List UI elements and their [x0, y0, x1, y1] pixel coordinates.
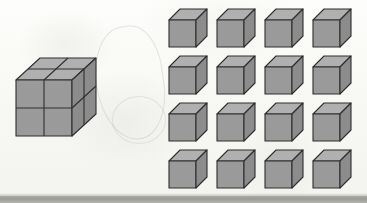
unit-cube-front-face: [313, 161, 340, 188]
unit-cube-svg: [168, 8, 208, 48]
unit-cube-front-face: [313, 114, 340, 141]
unit-cube-front-face: [265, 67, 292, 94]
unit-cube: [216, 8, 256, 52]
unit-cube-front-face: [313, 67, 340, 94]
page-bottom-band: [0, 196, 367, 203]
unit-cube-front-face: [217, 67, 244, 94]
unit-cube-svg: [264, 149, 304, 189]
figure-canvas: [0, 0, 367, 203]
unit-cube-svg: [264, 102, 304, 142]
unit-cube-front-face: [265, 114, 292, 141]
unit-cube: [312, 8, 352, 52]
unit-cube-front-face: [169, 20, 196, 47]
unit-cube-svg: [216, 149, 256, 189]
unit-cube: [168, 149, 208, 193]
unit-cube: [168, 8, 208, 52]
unit-cube: [312, 102, 352, 146]
unit-cube: [216, 55, 256, 99]
unit-cube-front-face: [169, 161, 196, 188]
unit-cube-front-face: [217, 114, 244, 141]
pencil-smudge-mark-secondary: [112, 96, 166, 144]
composite-cube-svg: [14, 52, 98, 138]
unit-cube-front-face: [265, 161, 292, 188]
unit-cube: [216, 102, 256, 146]
pencil-smudge-mark: [88, 22, 171, 144]
unit-cube: [264, 8, 304, 52]
unit-cube-front-face: [217, 20, 244, 47]
unit-cube-svg: [168, 102, 208, 142]
unit-cube: [168, 55, 208, 99]
unit-cube: [312, 55, 352, 99]
unit-cube-svg: [216, 55, 256, 95]
unit-cube-front-face: [169, 114, 196, 141]
unit-cube-front-face: [169, 67, 196, 94]
unit-cube: [216, 149, 256, 193]
unit-cube-svg: [216, 102, 256, 142]
unit-cube: [168, 102, 208, 146]
composite-cube-front-face: [16, 80, 72, 136]
unit-cube-svg: [264, 55, 304, 95]
unit-cube-svg: [168, 149, 208, 189]
unit-cube: [264, 102, 304, 146]
composite-cube: [14, 52, 98, 142]
unit-cube-front-face: [313, 20, 340, 47]
unit-cube-grid: [168, 8, 358, 194]
unit-cube-svg: [312, 8, 352, 48]
unit-cube-front-face: [265, 20, 292, 47]
unit-cube-svg: [312, 102, 352, 142]
unit-cube: [312, 149, 352, 193]
unit-cube: [264, 149, 304, 193]
unit-cube-front-face: [217, 161, 244, 188]
unit-cube-svg: [312, 55, 352, 95]
unit-cube-svg: [312, 149, 352, 189]
unit-cube: [264, 55, 304, 99]
unit-cube-svg: [168, 55, 208, 95]
unit-cube-svg: [264, 8, 304, 48]
unit-cube-svg: [216, 8, 256, 48]
